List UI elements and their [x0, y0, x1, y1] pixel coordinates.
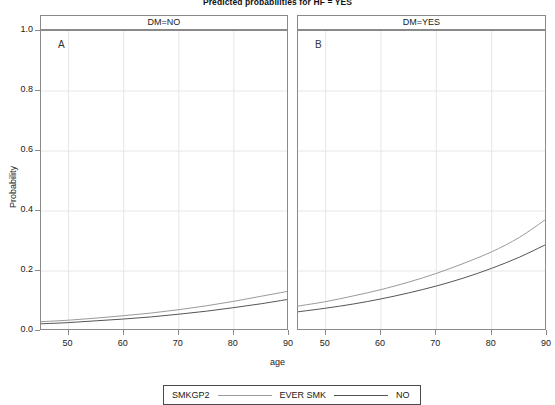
x-axis-tick-mark [546, 330, 547, 335]
x-axis-tick-mark [435, 330, 436, 335]
y-axis-tick-label: 0.6 [5, 144, 33, 154]
legend-entry-label: NO [396, 390, 410, 400]
legend-entry: EVER SMK [210, 390, 327, 400]
y-axis-tick-label: 0.0 [5, 324, 33, 334]
x-axis-tick-label: 90 [273, 338, 303, 348]
panel-strip-label: DM=YES [403, 17, 440, 27]
panel-strip-label: DM=NO [148, 17, 181, 27]
y-axis-label: Probability [8, 166, 18, 208]
y-axis-tick-label: 0.4 [5, 204, 33, 214]
legend-line-swatch [334, 395, 388, 396]
x-axis-tick-label: 80 [218, 338, 248, 348]
panel-letter-b: B [315, 39, 322, 50]
x-axis-tick-label: 50 [310, 338, 340, 348]
x-axis-tick-mark [380, 330, 381, 335]
x-axis-tick-label: 60 [108, 338, 138, 348]
x-axis-tick-mark [491, 330, 492, 335]
legend-entries: EVER SMKNO [210, 390, 410, 400]
x-axis-tick-label: 70 [420, 338, 450, 348]
legend: SMKGP2 EVER SMKNO [163, 385, 421, 405]
x-axis-label: age [0, 357, 555, 367]
panel-letter-a: A [58, 39, 65, 50]
x-axis-tick-label: 90 [531, 338, 555, 348]
x-axis-tick-label: 60 [365, 338, 395, 348]
x-axis-tick-mark [178, 330, 179, 335]
legend-entry-label: EVER SMK [280, 390, 327, 400]
y-axis-tick-mark [35, 330, 40, 331]
y-axis-tick-label: 0.8 [5, 84, 33, 94]
panel-plot-area-b [297, 30, 546, 330]
panel-plot-area-a [40, 30, 288, 330]
legend-title: SMKGP2 [164, 390, 210, 400]
x-axis-tick-mark [288, 330, 289, 335]
x-axis-tick-label: 50 [53, 338, 83, 348]
x-axis-tick-label: 80 [476, 338, 506, 348]
x-axis-tick-mark [68, 330, 69, 335]
y-axis-tick-label: 0.2 [5, 264, 33, 274]
series-line [298, 219, 546, 307]
x-axis-tick-label: 70 [163, 338, 193, 348]
legend-entry: NO [326, 390, 410, 400]
x-axis-tick-mark [123, 330, 124, 335]
series-line [41, 291, 288, 322]
panel-strip-a: DM=NO [40, 15, 288, 30]
panel-canvas [298, 31, 546, 330]
panel-canvas [41, 31, 288, 330]
panel-strip-b: DM=YES [297, 15, 546, 30]
x-axis-tick-mark [325, 330, 326, 335]
chart-title: Predicted probabilities for HF = YES [0, 0, 555, 7]
x-axis-tick-mark [233, 330, 234, 335]
y-axis-tick-label: 1.0 [5, 24, 33, 34]
legend-line-swatch [218, 395, 272, 396]
